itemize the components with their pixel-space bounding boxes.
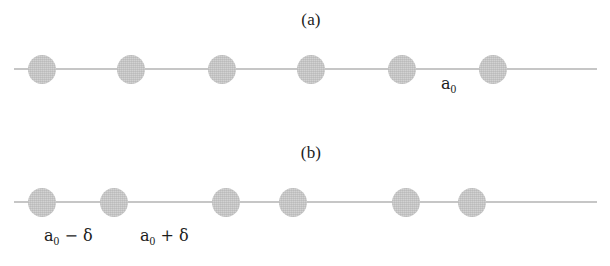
figure-root: (a) a0 (b) a0 − δ a0 + δ [0, 0, 610, 266]
atom [388, 55, 416, 84]
atom [392, 188, 420, 217]
atom [28, 55, 56, 84]
panel-b: (b) a0 − δ a0 + δ [0, 133, 610, 266]
atom [212, 188, 240, 217]
long-bond-label: a0 + δ [140, 228, 189, 247]
atom [208, 55, 236, 84]
atom [117, 55, 145, 84]
short-bond-label: a0 − δ [44, 228, 93, 247]
panel-a: (a) a0 [0, 0, 610, 133]
atom [279, 188, 307, 217]
lattice-constant-label: a0 [441, 76, 456, 95]
atom [297, 55, 325, 84]
atom [100, 188, 128, 217]
panel-a-caption: (a) [281, 10, 341, 30]
atom [28, 188, 56, 217]
atom [479, 55, 507, 84]
atom [458, 188, 486, 217]
panel-b-caption: (b) [281, 143, 341, 163]
